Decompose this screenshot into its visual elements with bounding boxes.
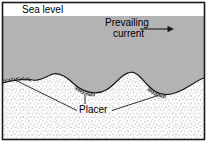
- sea-level-label: Sea level: [22, 4, 63, 15]
- seafloor-placer-cross-section: Sea level Prevailing current Placer: [0, 0, 211, 148]
- prevailing-current-label-line2: current: [113, 28, 144, 39]
- figure-container: Sea level Prevailing current Placer: [0, 0, 211, 148]
- prevailing-current-label-line1: Prevailing: [105, 17, 149, 28]
- placer-label: Placer: [79, 104, 108, 115]
